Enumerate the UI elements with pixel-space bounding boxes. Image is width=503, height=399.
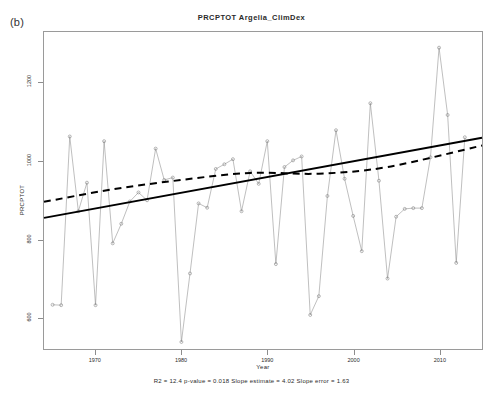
- x-axis-tick-label: 1980: [175, 357, 187, 363]
- y-axis-tick-label: 1200: [26, 73, 32, 89]
- plot-area: [43, 31, 483, 350]
- linear-trend-path: [44, 138, 482, 218]
- smoothed-trend-path: [44, 145, 482, 201]
- x-axis-tick: [267, 350, 268, 355]
- linear-trend-line: [44, 138, 482, 218]
- x-axis-label: Year: [43, 364, 483, 370]
- x-axis-tick: [95, 350, 96, 355]
- x-axis-tick: [354, 350, 355, 355]
- smoothed-trend-line: [44, 145, 482, 201]
- data-series-prcptot: [51, 46, 466, 343]
- y-axis-tick-label: 600: [26, 309, 32, 325]
- y-axis-tick-label: 1000: [26, 152, 32, 168]
- x-axis-tick: [440, 350, 441, 355]
- x-axis-tick-label: 2010: [434, 357, 446, 363]
- x-axis-tick: [181, 350, 182, 355]
- chart-title: PRCPTOT Argelia_ClimDex: [0, 13, 503, 22]
- y-axis-label: PRCPTOT: [19, 184, 25, 215]
- x-axis-tick-label: 1990: [261, 357, 273, 363]
- stats-annotation: R2 = 12.4 p-value = 0.018 Slope estimate…: [0, 378, 503, 384]
- chart-root: (b) PRCPTOT Argelia_ClimDex PRCPTOT Year…: [0, 0, 503, 399]
- y-axis-tick-label: 800: [26, 231, 32, 247]
- plot-canvas: [44, 32, 482, 349]
- series-polyline: [53, 48, 465, 342]
- x-axis-tick-label: 1970: [89, 357, 101, 363]
- x-axis-tick-label: 2000: [347, 357, 359, 363]
